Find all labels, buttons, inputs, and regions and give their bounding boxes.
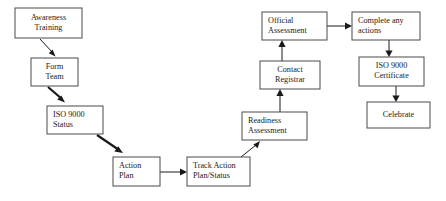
node-label-track-action-plan-status: Track Action xyxy=(193,161,236,170)
node-label-awareness-training: Awareness xyxy=(31,13,66,22)
node-readiness-assessment[interactable]: ReadinessAssessment xyxy=(242,112,307,140)
node-official-assessment[interactable]: OfficialAssessment xyxy=(262,12,327,40)
node-label-iso-9000-certificate: ISO 9000 xyxy=(376,61,408,70)
node-layer: AwarenessTrainingFormTeamISO 9000StatusA… xyxy=(15,8,430,186)
node-label-form-team: Team xyxy=(45,72,64,81)
connector-complete-to-certificate xyxy=(385,40,392,57)
node-label-contact-registrar: Contact xyxy=(277,65,303,74)
connector-form-team-to-iso-status xyxy=(48,87,65,103)
node-label-contact-registrar: Registrar xyxy=(275,75,305,84)
node-form-team[interactable]: FormTeam xyxy=(31,58,78,86)
node-track-action-plan-status[interactable]: Track ActionPlan/Status xyxy=(187,157,250,186)
node-label-readiness-assessment: Assessment xyxy=(248,126,287,135)
node-label-official-assessment: Assessment xyxy=(268,26,307,35)
connector-readiness-to-contact xyxy=(276,89,283,112)
node-label-iso-9000-status: ISO 9000 xyxy=(53,110,85,119)
node-iso-9000-certificate[interactable]: ISO 9000Certificate xyxy=(359,57,424,86)
node-label-iso-9000-certificate: Certificate xyxy=(374,71,409,80)
connector-contact-to-official xyxy=(278,40,285,61)
connector-official-to-complete xyxy=(327,22,352,29)
node-awareness-training[interactable]: AwarenessTraining xyxy=(15,8,82,38)
node-label-celebrate: Celebrate xyxy=(383,110,415,119)
process-flowchart: AwarenessTrainingFormTeamISO 9000StatusA… xyxy=(0,0,446,201)
node-complete-any-actions[interactable]: Complete anyactions xyxy=(352,12,420,40)
node-label-iso-9000-status: Status xyxy=(53,120,73,129)
connector-iso-status-to-action-plan xyxy=(97,135,123,153)
node-label-complete-any-actions: Complete any xyxy=(358,16,405,25)
connector-track-action-to-readiness xyxy=(241,141,260,157)
node-action-plan[interactable]: ActionPlan xyxy=(113,157,160,186)
node-label-track-action-plan-status: Plan/Status xyxy=(193,171,230,180)
node-contact-registrar[interactable]: ContactRegistrar xyxy=(260,61,320,89)
node-label-awareness-training: Training xyxy=(35,23,63,32)
node-label-official-assessment: Official xyxy=(268,16,294,25)
connector-awareness-to-form-team xyxy=(40,39,56,57)
node-celebrate[interactable]: Celebrate xyxy=(367,102,430,128)
connector-certificate-to-celebrate xyxy=(392,86,399,102)
node-label-action-plan: Plan xyxy=(119,171,134,180)
node-label-form-team: Form xyxy=(46,62,64,71)
node-label-complete-any-actions: actions xyxy=(358,26,381,35)
connector-layer xyxy=(40,22,400,175)
node-iso-9000-status[interactable]: ISO 9000Status xyxy=(47,106,103,134)
node-label-readiness-assessment: Readiness xyxy=(248,116,281,125)
node-label-action-plan: Action xyxy=(119,161,141,170)
connector-action-plan-to-track-action xyxy=(160,168,187,175)
